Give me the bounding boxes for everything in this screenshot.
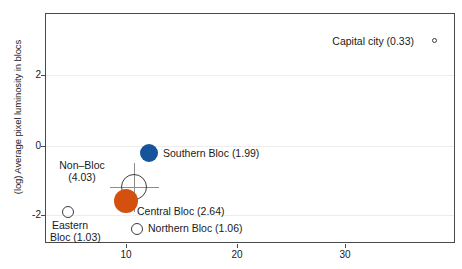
label-southern-bloc: Southern Bloc (1.99) [163,148,259,160]
scatter-chart-figure: (log) Average pixel luminosity in blocs … [0,0,462,269]
label-central-bloc: Central Bloc (2.64) [137,206,225,218]
gridline-y-minus-2 [46,215,454,216]
y-tick-label-2: 2 [17,70,41,80]
label-non-bloc-line1: Non–Bloc [42,160,122,172]
label-capital-city: Capital city (0.33) [264,36,414,48]
label-non-bloc-line2: (4.03) [42,172,122,184]
y-tick-label-minus-2: -2 [14,210,41,220]
datapoint-southern-bloc[interactable] [140,144,158,162]
x-tick-label-10: 10 [106,250,146,260]
label-eastern-bloc-line1: Eastern [52,220,88,232]
gridline-y-2 [46,75,454,76]
label-northern-bloc: Northern Bloc (1.06) [148,223,243,235]
datapoint-eastern-bloc[interactable] [62,206,74,218]
datapoint-capital-city[interactable] [432,38,437,43]
y-axis-title: (log) Average pixel luminosity in blocs [12,2,23,232]
datapoint-central-bloc[interactable] [114,189,138,213]
y-tick-label-0: 0 [17,141,41,151]
x-tick-label-20: 20 [217,250,257,260]
x-tick-mark-30 [345,244,346,248]
x-tick-mark-20 [237,244,238,248]
x-tick-mark-10 [126,244,127,248]
label-eastern-bloc-line2: Bloc (1.03) [50,232,101,244]
datapoint-northern-bloc[interactable] [131,223,143,235]
x-tick-label-30: 30 [325,250,365,260]
plot-area: Capital city (0.33) Southern Bloc (1.99)… [45,13,455,243]
